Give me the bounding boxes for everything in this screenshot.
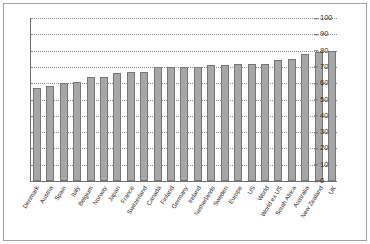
y-tick-10: 10 — [314, 161, 348, 169]
x-tick-label: Italy — [69, 185, 80, 198]
bar — [288, 59, 296, 181]
y-tick-mark-icon — [314, 181, 318, 182]
y-tick-mark-icon — [314, 164, 318, 165]
y-tick-20: 20 — [314, 145, 348, 153]
bar — [46, 86, 54, 181]
x-tick-slot: Netherlands — [207, 184, 215, 242]
x-tick-slot: Sweden — [220, 184, 228, 242]
bar — [73, 82, 81, 181]
y-tick-80: 80 — [314, 47, 348, 55]
figure-frame: 0102030405060708090100 DenmarkAustriaSpa… — [3, 3, 367, 241]
bar — [154, 67, 162, 181]
x-tick-slot: Denmark — [31, 184, 39, 242]
chart-figure: 0102030405060708090100 DenmarkAustriaSpa… — [0, 0, 370, 244]
y-tick-40: 40 — [314, 112, 348, 120]
x-tick-slot: Japan — [112, 184, 120, 242]
x-axis-tick-labels: DenmarkAustriaSpainItalyBelgiumNorwayJap… — [30, 184, 337, 242]
y-tick-30: 30 — [314, 128, 348, 136]
bar — [87, 77, 95, 181]
bar — [140, 72, 148, 181]
y-tick-mark-icon — [314, 83, 318, 84]
y-tick-label: 30 — [320, 127, 328, 136]
bar — [207, 65, 215, 181]
bar — [234, 64, 242, 181]
y-tick-label: 10 — [320, 160, 328, 169]
y-tick-label: 100 — [320, 13, 333, 22]
x-tick-slot: UK — [328, 184, 336, 242]
y-tick-90: 90 — [314, 31, 348, 39]
x-tick-label: UK — [327, 185, 337, 196]
y-tick-label: 70 — [320, 62, 328, 71]
x-tick-slot: US — [247, 184, 255, 242]
x-tick-label: Denmark — [22, 185, 41, 210]
bar — [60, 83, 68, 181]
y-tick-mark-icon — [314, 116, 318, 117]
y-tick-mark-icon — [314, 18, 318, 19]
x-tick-label: Austria — [38, 185, 53, 205]
x-tick-slot: Norway — [99, 184, 107, 242]
x-tick-slot: Italy — [72, 184, 80, 242]
bar — [180, 67, 188, 181]
x-tick-slot: Canada — [153, 184, 161, 242]
y-tick-mark-icon — [314, 67, 318, 68]
x-tick-slot: Belgium — [85, 184, 93, 242]
bar-series — [32, 18, 337, 181]
bar — [194, 67, 202, 181]
y-tick-label: 90 — [320, 30, 328, 39]
x-tick-slot: Switzerland — [139, 184, 147, 242]
y-tick-label: 40 — [320, 111, 328, 120]
y-tick-60: 60 — [314, 79, 348, 87]
x-tick-label: US — [246, 185, 256, 196]
y-tick-mark-icon — [314, 132, 318, 133]
bar — [221, 65, 229, 181]
bar — [127, 72, 135, 181]
bar — [301, 54, 309, 181]
y-tick-label: 60 — [320, 78, 328, 87]
bar — [113, 73, 121, 181]
x-tick-slot: Finland — [166, 184, 174, 242]
x-tick-slot: Spain — [58, 184, 66, 242]
bar — [274, 60, 282, 181]
y-tick-70: 70 — [314, 63, 348, 71]
y-tick-mark-icon — [314, 148, 318, 149]
y-tick-mark-icon — [314, 34, 318, 35]
bar — [248, 64, 256, 181]
x-tick-label: Spain — [54, 185, 68, 202]
y-tick-label: 50 — [320, 95, 328, 104]
x-tick-slot: Austria — [45, 184, 53, 242]
y-tick-label: 20 — [320, 144, 328, 153]
x-tick-slot: New Zealand — [315, 184, 323, 242]
y-tick-label: 80 — [320, 46, 328, 55]
x-tick-slot: South Africa — [288, 184, 296, 242]
y-tick-50: 50 — [314, 96, 348, 104]
bar — [261, 64, 269, 181]
x-tick-slot: Germany — [180, 184, 188, 242]
x-tick-slot: Europe — [234, 184, 242, 242]
bar — [167, 67, 175, 181]
bar — [100, 77, 108, 181]
bar — [33, 88, 41, 181]
y-tick-mark-icon — [314, 50, 318, 51]
y-tick-100: 100 — [314, 14, 348, 22]
y-tick-mark-icon — [314, 99, 318, 100]
plot-area — [30, 18, 337, 182]
